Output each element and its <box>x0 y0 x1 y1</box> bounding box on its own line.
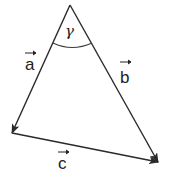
vector-c-label: c <box>58 154 67 173</box>
vector-a-label: a <box>25 55 35 74</box>
vector-b-edge <box>70 5 158 162</box>
vector-a-label-group: a <box>25 51 36 74</box>
vector-arrow-icon <box>120 60 131 64</box>
angle-gamma-label: γ <box>65 22 74 40</box>
vector-c-edge <box>12 133 158 162</box>
vector-b-label: b <box>120 68 129 87</box>
vector-triangle-diagram: γ a b c <box>0 0 169 175</box>
angle-gamma-arc <box>53 43 92 48</box>
vector-c-label-group: c <box>58 150 69 173</box>
vector-a-edge <box>12 5 70 133</box>
vector-b-label-group: b <box>120 60 131 87</box>
